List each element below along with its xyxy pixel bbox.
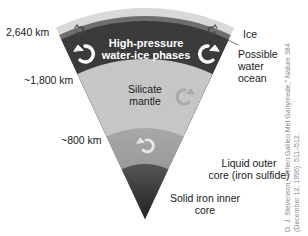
credit-line: D. J. Stevenson, "When Galileo Met Ganym… <box>284 43 293 232</box>
label-silicate-mantle: Silicate mantle <box>120 83 170 107</box>
label-line: ocean <box>238 72 278 84</box>
label-line: core <box>160 204 250 216</box>
radius-marker-mantle-top: ~1,800 km <box>24 74 73 86</box>
label-line: Silicate <box>120 83 170 95</box>
ocean-pointer-line <box>228 40 238 45</box>
label-line: High-pressure <box>96 37 196 49</box>
label-water-ocean: Possible water ocean <box>238 48 278 84</box>
label-line: Possible <box>238 48 278 60</box>
radius-marker-core-top: ~800 km <box>61 134 102 146</box>
label-inner-core: Solid iron inner core <box>160 192 250 216</box>
source-credit: D. J. Stevenson, "When Galileo Met Ganym… <box>284 43 301 232</box>
credit-line: (December 12, 1996): 511–512. <box>293 43 302 232</box>
label-ice: Ice <box>243 28 257 40</box>
label-line: Solid iron inner <box>160 192 250 204</box>
label-line: water <box>238 60 278 72</box>
label-line: mantle <box>120 95 170 107</box>
radius-marker-surface: 2,640 km <box>6 26 49 38</box>
label-line: water-ice phases <box>96 49 196 61</box>
label-high-pressure-ice: High-pressure water-ice phases <box>96 37 196 61</box>
